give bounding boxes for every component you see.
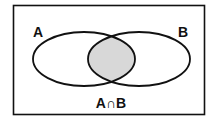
venn-diagram: A B A∩B <box>0 0 215 121</box>
intersection-label: A∩B <box>96 95 126 111</box>
set-a-label: A <box>33 24 43 40</box>
set-b-label: B <box>178 24 188 40</box>
